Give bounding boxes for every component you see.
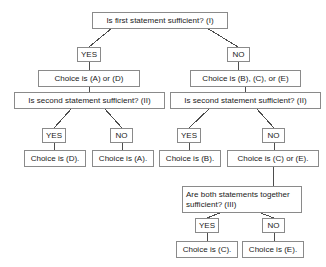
node-result-a[interactable]: Choice is (A). xyxy=(92,150,154,167)
node-label: YES xyxy=(199,221,215,231)
node-label: YES xyxy=(181,131,197,141)
node-choices-b-c-or-e[interactable]: Choice is (B), (C), or (E) xyxy=(190,70,301,87)
node-label: Choice is (B), (C), or (E) xyxy=(202,74,288,84)
node-question-both-statements[interactable]: Are both statements together sufficient?… xyxy=(182,186,302,213)
node-label: Choice is (C) or (E). xyxy=(237,154,308,164)
node-q2-right-yes[interactable]: YES xyxy=(177,128,201,143)
node-label: NO xyxy=(232,50,244,60)
node-label: YES xyxy=(81,50,97,60)
node-label: Is first statement sufficient? (I) xyxy=(106,16,213,26)
node-result-d[interactable]: Choice is (D). xyxy=(24,150,86,167)
node-q2-right-no[interactable]: NO xyxy=(262,128,285,143)
flowchart-canvas: Is first statement sufficient? (I) YES N… xyxy=(0,0,326,267)
node-label: Choice is (C). xyxy=(183,245,232,255)
node-label: Is second statement sufficient? (II) xyxy=(28,96,150,106)
node-label: Choice is (B). xyxy=(166,154,214,164)
node-question-second-statement-left[interactable]: Is second statement sufficient? (II) xyxy=(14,92,165,109)
node-q3-no[interactable]: NO xyxy=(262,218,285,233)
node-choices-a-or-d[interactable]: Choice is (A) or (D) xyxy=(38,70,140,87)
node-q1-no[interactable]: NO xyxy=(227,47,250,62)
node-result-c[interactable]: Choice is (C). xyxy=(176,241,238,258)
node-label: NO xyxy=(115,131,127,141)
node-result-b[interactable]: Choice is (B). xyxy=(159,150,221,167)
node-q2-left-no[interactable]: NO xyxy=(110,128,133,143)
node-label: Are both statements together sufficient?… xyxy=(186,190,290,209)
node-label: Choice is (E). xyxy=(249,245,297,255)
node-q3-yes[interactable]: YES xyxy=(195,218,219,233)
node-label: Choice is (D). xyxy=(31,154,80,164)
node-question-second-statement-right[interactable]: Is second statement sufficient? (II) xyxy=(170,92,321,109)
node-label: YES xyxy=(46,131,62,141)
node-question-first-statement[interactable]: Is first statement sufficient? (I) xyxy=(92,12,228,29)
node-label: Is second statement sufficient? (II) xyxy=(184,96,306,106)
node-label: NO xyxy=(267,131,279,141)
node-label: Choice is (A). xyxy=(99,154,147,164)
node-label: Choice is (A) or (D) xyxy=(55,74,124,84)
node-result-c-or-e[interactable]: Choice is (C) or (E). xyxy=(227,150,319,167)
node-label: NO xyxy=(267,221,279,231)
node-result-e[interactable]: Choice is (E). xyxy=(242,241,304,258)
node-q1-yes[interactable]: YES xyxy=(77,47,101,62)
node-q2-left-yes[interactable]: YES xyxy=(42,128,66,143)
